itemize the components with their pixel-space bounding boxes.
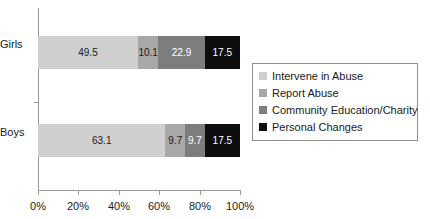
stacked-bar-chart: Girls Boys 0% 20% 40% 60% 80% 100% 49.51… [0, 0, 430, 219]
x-axis-line [38, 190, 240, 191]
legend-item-intervene-in-abuse[interactable]: Intervene in Abuse [259, 69, 411, 83]
bar-segment-value: 17.5 [213, 47, 232, 59]
bar-segment: 9.7 [165, 124, 185, 157]
bar-segment: 17.5 [205, 124, 240, 157]
bar-segment: 22.9 [158, 36, 204, 69]
bar-segment: 9.7 [185, 124, 205, 157]
category-label-girls: Girls [0, 38, 34, 51]
x-axis-label-60: 60% [148, 200, 170, 213]
legend-item-personal-changes[interactable]: Personal Changes [259, 120, 411, 134]
legend-swatch-icon [259, 106, 267, 114]
bar-girls: 49.510.122.917.5 [38, 36, 240, 69]
bar-segment-value: 17.5 [213, 135, 232, 147]
legend-label: Community Education/Charity [272, 103, 418, 117]
x-axis-label-20: 20% [67, 200, 89, 213]
bar-boys: 63.19.79.717.5 [38, 124, 240, 157]
x-axis-tick-60 [159, 190, 160, 195]
legend: Intervene in Abuse Report Abuse Communit… [252, 63, 418, 141]
legend-item-community-education-charity[interactable]: Community Education/Charity [259, 103, 411, 117]
legend-swatch-icon [259, 123, 267, 131]
bar-segment-value: 49.5 [78, 47, 97, 59]
plot-area: 0% 20% 40% 60% 80% 100% 49.510.122.917.5… [38, 8, 240, 190]
x-axis-tick-0 [38, 190, 39, 195]
x-axis-label-100: 100% [226, 200, 254, 213]
legend-label: Intervene in Abuse [272, 69, 363, 83]
x-axis-label-80: 80% [189, 200, 211, 213]
legend-label: Report Abuse [272, 86, 339, 100]
x-axis-tick-100 [240, 190, 241, 195]
x-axis-label-40: 40% [108, 200, 130, 213]
legend-label: Personal Changes [272, 120, 363, 134]
y-axis-tick [34, 102, 38, 103]
bar-segment-value: 9.7 [168, 135, 182, 147]
legend-swatch-icon [259, 72, 267, 80]
bar-segment-value: 9.7 [188, 135, 202, 147]
bar-segment: 49.5 [38, 36, 138, 69]
bar-segment-value: 63.1 [92, 135, 111, 147]
x-axis-tick-40 [119, 190, 120, 195]
x-axis-tick-80 [200, 190, 201, 195]
x-axis-tick-20 [78, 190, 79, 195]
legend-item-report-abuse[interactable]: Report Abuse [259, 86, 411, 100]
legend-swatch-icon [259, 89, 267, 97]
bar-segment-value: 22.9 [172, 47, 191, 59]
bar-segment: 63.1 [38, 124, 165, 157]
category-label-boys: Boys [0, 126, 34, 139]
bar-segment: 17.5 [205, 36, 240, 69]
bar-segment: 10.1 [138, 36, 158, 69]
x-axis-label-0: 0% [30, 200, 46, 213]
bar-segment-value: 10.1 [138, 47, 157, 59]
